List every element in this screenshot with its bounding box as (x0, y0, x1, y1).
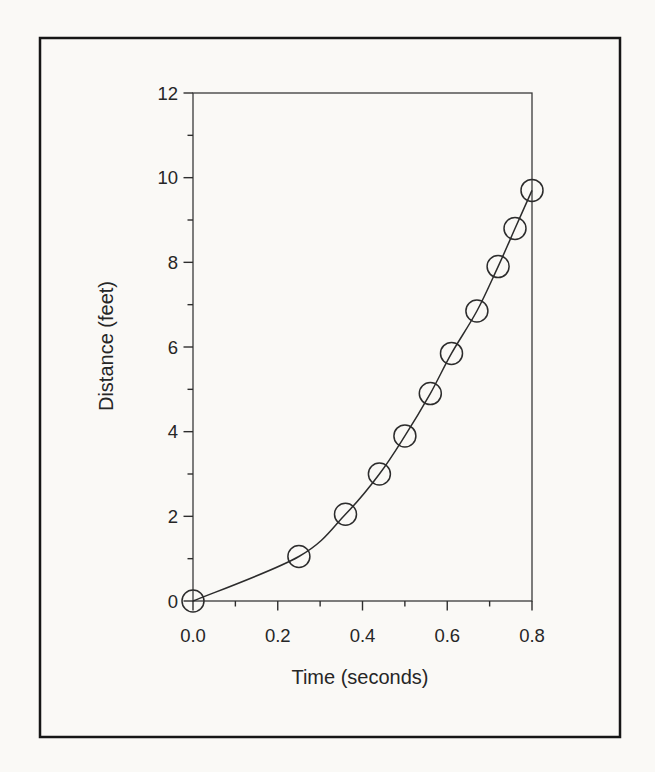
distance-time-chart: 024681012 0.00.20.40.60.8 Distance (feet… (0, 0, 655, 772)
y-tick-label: 2 (168, 506, 178, 527)
y-tick-label: 4 (168, 421, 178, 442)
x-tick-label: 0.2 (265, 625, 291, 646)
data-curve (193, 190, 532, 601)
x-axis-tick-labels: 0.00.20.40.60.8 (180, 625, 545, 646)
plot-frame (193, 93, 532, 601)
x-tick-label: 0.4 (350, 625, 376, 646)
x-tick-label: 0.6 (434, 625, 460, 646)
x-tick-label: 0.0 (180, 625, 206, 646)
x-tick-label: 0.8 (519, 625, 545, 646)
data-point-markers (182, 179, 543, 612)
y-tick-label: 10 (157, 167, 178, 188)
y-tick-label: 12 (157, 83, 178, 104)
scanned-page: 024681012 0.00.20.40.60.8 Distance (feet… (0, 0, 655, 772)
y-axis-ticks (184, 93, 194, 601)
x-axis-ticks (193, 601, 532, 611)
y-tick-label: 0 (168, 591, 178, 612)
y-axis-tick-labels: 024681012 (157, 83, 178, 612)
y-tick-label: 6 (168, 337, 178, 358)
y-tick-label: 8 (168, 252, 178, 273)
y-axis-title: Distance (feet) (95, 281, 117, 411)
x-axis-title: Time (seconds) (291, 666, 428, 688)
